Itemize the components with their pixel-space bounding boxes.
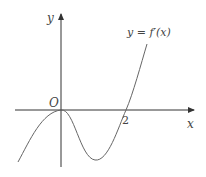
function-label: y = f′(x) bbox=[126, 26, 171, 39]
origin-label: O bbox=[49, 96, 59, 110]
x-axis-label: x bbox=[187, 117, 194, 131]
derivative-graph: y x O 2 y = f′(x) bbox=[0, 0, 206, 177]
y-axis-label: y bbox=[46, 11, 54, 25]
x-tick-label-2: 2 bbox=[122, 114, 129, 127]
derivative-curve bbox=[18, 44, 147, 162]
